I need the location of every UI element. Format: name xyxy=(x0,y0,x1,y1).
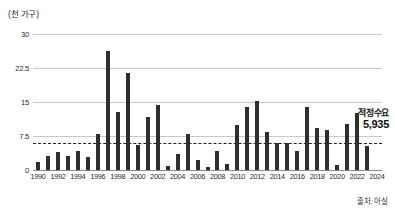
x-axis-tick-label: 1994 xyxy=(70,172,85,181)
x-axis-tick-label: 2024 xyxy=(369,172,384,181)
x-axis-tick-label: 2006 xyxy=(190,172,205,181)
x-axis-tick-label: 2014 xyxy=(270,172,285,181)
x-axis-tick-label: 1990 xyxy=(30,172,45,181)
y-axis-tick-label: 30 xyxy=(21,30,29,39)
bar xyxy=(66,156,70,170)
reference-line-label: 적정수요 xyxy=(358,108,389,118)
bar xyxy=(245,107,249,170)
x-axis-tick-label: 2012 xyxy=(250,172,265,181)
y-axis-tick-label: 7.5 xyxy=(19,132,29,141)
bar xyxy=(86,157,90,170)
x-axis-tick-label: 2022 xyxy=(350,172,365,181)
bar xyxy=(315,128,319,170)
bar xyxy=(186,134,190,170)
y-axis-unit-label: (천 가구) xyxy=(8,7,39,19)
plot-area: 07.51522.530 xyxy=(33,34,382,170)
x-axis-tick-label: 2010 xyxy=(230,172,245,181)
x-axis-ticks: 1990199219941996199820002002200420062008… xyxy=(33,172,382,186)
x-axis-tick-label: 2008 xyxy=(210,172,225,181)
bar xyxy=(265,132,269,170)
bar xyxy=(295,151,299,170)
bar xyxy=(176,154,180,170)
x-axis-tick-label: 2000 xyxy=(130,172,145,181)
source-note: 출처: 아실 xyxy=(357,195,388,206)
bar xyxy=(116,112,120,170)
reference-annotation: 적정수요 5,935 xyxy=(358,108,389,130)
reference-line-value: 5,935 xyxy=(358,118,389,130)
y-axis-tick-label: 22.5 xyxy=(15,64,29,73)
bar xyxy=(215,151,219,170)
x-axis-tick-label: 1996 xyxy=(90,172,105,181)
x-axis-tick-label: 2004 xyxy=(170,172,185,181)
bar xyxy=(275,143,279,170)
bar xyxy=(255,101,259,170)
bar xyxy=(225,164,229,170)
x-axis-tick-label: 1998 xyxy=(110,172,125,181)
bar xyxy=(126,73,130,170)
bar xyxy=(305,107,309,170)
bar xyxy=(36,162,40,170)
bar xyxy=(335,165,339,170)
bar xyxy=(196,160,200,170)
x-axis-tick-label: 2002 xyxy=(150,172,165,181)
bar xyxy=(166,166,170,170)
x-axis-tick-label: 1992 xyxy=(50,172,65,181)
y-axis-tick-label: 0 xyxy=(25,166,29,175)
y-axis-tick-label: 15 xyxy=(21,98,29,107)
x-axis-tick-label: 2020 xyxy=(330,172,345,181)
bar xyxy=(96,134,100,170)
bar-series xyxy=(33,34,382,170)
bar xyxy=(76,151,80,170)
bar xyxy=(156,105,160,170)
bar xyxy=(106,51,110,170)
bar xyxy=(136,145,140,170)
bar xyxy=(206,167,210,170)
x-axis-tick-label: 2018 xyxy=(310,172,325,181)
bar xyxy=(285,143,289,170)
x-axis-tick-label: 2016 xyxy=(290,172,305,181)
bar xyxy=(146,117,150,170)
bar xyxy=(325,130,329,170)
bar xyxy=(235,125,239,170)
axis-line-zero xyxy=(33,170,382,171)
bar-chart: (천 가구) 07.51522.530 19901992199419961998… xyxy=(0,0,395,212)
bar xyxy=(56,152,60,170)
bar xyxy=(345,124,349,170)
bar xyxy=(365,146,369,170)
bar xyxy=(46,156,50,171)
